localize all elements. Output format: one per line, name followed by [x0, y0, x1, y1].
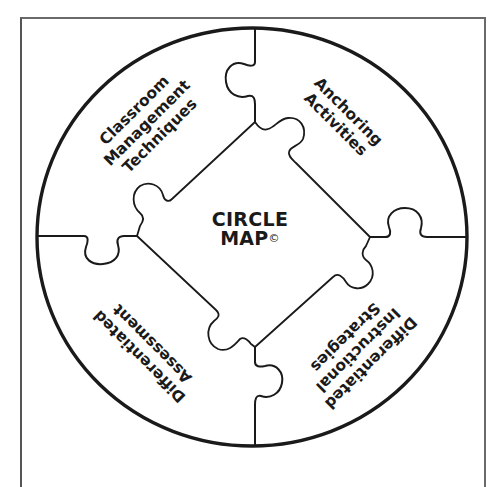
center-title: CIRCLE MAP©: [200, 210, 300, 248]
right-divider: [370, 208, 467, 237]
left-divider: [38, 236, 137, 264]
center-title-line2: MAP©: [200, 229, 300, 248]
center-title-map: MAP: [220, 227, 268, 249]
copyright-mark: ©: [269, 232, 280, 245]
